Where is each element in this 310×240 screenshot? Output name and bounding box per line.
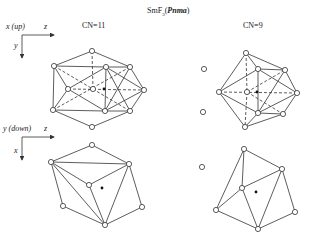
polyhedra-diagram: [0, 0, 310, 240]
cn11-bottom-polyhedron: [51, 145, 142, 225]
cn9-bottom-polyhedron: [216, 149, 295, 229]
top-axes-icon: [22, 35, 54, 58]
cn11-top-atoms: [50, 48, 146, 129]
sm-atom-dot: [103, 88, 106, 91]
sm-atom-dot: [101, 187, 104, 190]
cn9-bottom-atoms: [199, 146, 297, 231]
sm-atom-dot: [256, 91, 259, 94]
cn9-top-atoms: [200, 50, 299, 129]
sm-atom-dot: [255, 191, 258, 194]
bottom-axes-icon: [22, 137, 54, 160]
